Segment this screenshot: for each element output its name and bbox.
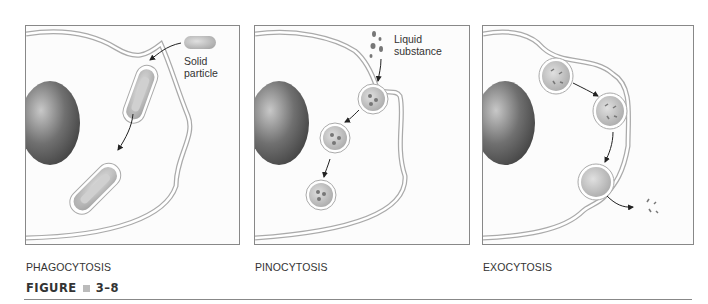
square-bullet-icon <box>83 285 90 292</box>
solid-particle <box>184 36 216 49</box>
nucleus <box>255 81 309 165</box>
nucleus <box>26 81 80 165</box>
liquid-substance-label: Liquid substance <box>394 33 442 57</box>
exocytosis-panel <box>482 25 694 245</box>
liquid-droplets <box>370 31 384 58</box>
figure-label: FIGURE3–8 <box>26 281 119 295</box>
caption-exocytosis: EXOCYTOSIS <box>483 261 552 273</box>
exocytosis-illustration <box>483 26 694 245</box>
solid-particle-label: Solid particle <box>184 55 218 79</box>
divider <box>24 299 692 300</box>
pinocytosis-panel: Liquid substance <box>254 25 470 245</box>
nucleus <box>483 81 535 165</box>
phagocytosis-panel: Solid particle <box>25 25 240 245</box>
pinocytosis-illustration <box>255 26 470 245</box>
caption-phagocytosis: PHAGOCYTOSIS <box>26 261 111 273</box>
caption-pinocytosis: PINOCYTOSIS <box>255 261 328 273</box>
